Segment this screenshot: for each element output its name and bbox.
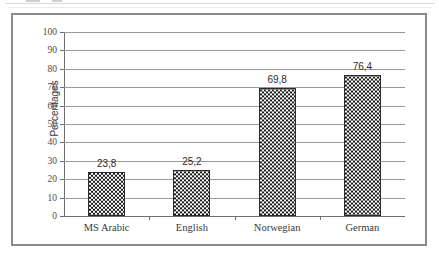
y-tick-mark [60, 216, 64, 217]
chart-frame: Percentages 0102030405060708090100 23,82… [11, 13, 427, 246]
x-tick-mark [235, 216, 236, 220]
y-tick-label: 20 [48, 174, 58, 184]
bar-value-label: 69,8 [267, 74, 286, 85]
y-tick-mark [60, 32, 64, 33]
y-tick-label: 10 [48, 193, 58, 203]
bar-value-label: 76,4 [353, 61, 372, 72]
gridline [64, 50, 405, 51]
y-tick-label: 50 [48, 119, 58, 129]
scan-artifact-mark [52, 0, 62, 2]
x-category-label: Norwegian [254, 222, 301, 233]
y-tick-label: 70 [48, 82, 58, 92]
x-tick-mark [149, 216, 150, 220]
y-tick-mark [60, 69, 64, 70]
y-tick-label: 100 [43, 27, 57, 37]
y-tick-mark [60, 106, 64, 107]
bar[interactable] [88, 172, 125, 216]
gridline [64, 32, 405, 33]
y-tick-mark [60, 142, 64, 143]
x-category-label: English [176, 222, 208, 233]
bar[interactable] [259, 88, 296, 216]
y-tick-label: 0 [52, 211, 57, 221]
scan-artifact-mark [26, 0, 40, 2]
scan-artifact-line-secondary [8, 7, 432, 8]
scan-artifact-line [6, 3, 434, 4]
y-tick-mark [60, 50, 64, 51]
x-category-label: German [345, 222, 379, 233]
y-tick-mark [60, 161, 64, 162]
y-tick-label: 40 [48, 137, 58, 147]
y-tick-label: 30 [48, 156, 58, 166]
y-tick-mark [60, 124, 64, 125]
y-tick-label: 80 [48, 64, 58, 74]
plot-area: 0102030405060708090100 23,825,269,876,4 … [64, 32, 405, 216]
bar[interactable] [344, 75, 381, 216]
y-tick-label: 60 [48, 101, 58, 111]
bar-value-label: 23,8 [97, 158, 116, 169]
y-tick-mark [60, 198, 64, 199]
y-tick-label: 90 [48, 45, 58, 55]
x-category-label: MS Arabic [84, 222, 130, 233]
bar-value-label: 25,2 [182, 156, 201, 167]
y-tick-mark [60, 179, 64, 180]
x-tick-mark [320, 216, 321, 220]
bar[interactable] [173, 170, 210, 216]
y-tick-mark [60, 87, 64, 88]
